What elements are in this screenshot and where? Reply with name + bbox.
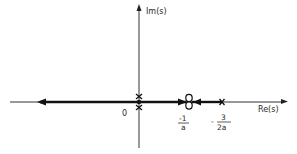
svg-text:-: - (211, 117, 214, 126)
left-arrow-icon (37, 99, 46, 106)
svg-text:3: 3 (221, 113, 226, 122)
imag-axis-label: Im(s) (146, 7, 167, 16)
svg-text:-1: -1 (179, 114, 187, 123)
pole-location-label: - 3 2a (211, 113, 231, 132)
locus-branches (37, 99, 222, 106)
origin-label: 0 (122, 109, 127, 118)
up-arrow-icon (137, 4, 142, 11)
zero-circle-icon (186, 102, 192, 109)
root-locus-diagram: Im(s) Re(s) 0 -1 a - 3 2a (0, 0, 297, 154)
left-arrow-icon (193, 99, 201, 106)
real-axis-label: Re(s) (258, 105, 279, 114)
zero-location-label: -1 a (178, 114, 189, 132)
double-pole-origin (136, 94, 142, 110)
imaginary-axis (137, 4, 142, 148)
zero-circle-icon (186, 94, 192, 101)
svg-text:a: a (181, 123, 186, 132)
right-arrow-icon (281, 99, 288, 104)
svg-text:2a: 2a (217, 123, 226, 132)
